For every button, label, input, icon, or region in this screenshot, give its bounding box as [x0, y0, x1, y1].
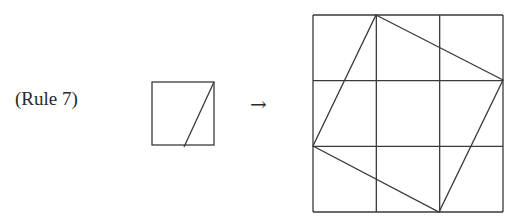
square-outline	[152, 82, 214, 145]
tilted-square	[313, 15, 503, 212]
small-square	[152, 82, 214, 147]
grid-with-tilted-square	[313, 15, 503, 212]
diagram	[0, 0, 517, 222]
diagonal-line	[184, 82, 214, 147]
